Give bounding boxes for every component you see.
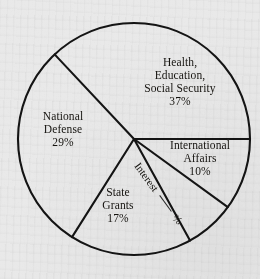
pie-chart-figure: Health, Education, Social Security 37% N…	[0, 0, 260, 279]
slice-value-international: 10%	[152, 165, 248, 178]
slice-value-defense: 29%	[20, 136, 106, 149]
slice-label-international-line2: Affairs	[152, 152, 248, 165]
slice-label-health-line2: Education,	[124, 69, 236, 82]
slice-label-international-line1: International	[152, 139, 248, 152]
slice-label-health-line3: Social Security	[124, 82, 236, 95]
slice-label-state-line2: Grants	[78, 199, 158, 212]
slice-value-state: 17%	[78, 212, 158, 225]
slice-label-state-line1: State	[78, 186, 158, 199]
slice-label-defense-line2: Defense	[20, 123, 106, 136]
slice-label-health-line1: Health,	[124, 56, 236, 69]
slice-label-state-grants: State Grants 17%	[78, 186, 158, 225]
slice-label-national-defense: National Defense 29%	[20, 110, 106, 149]
slice-label-international-affairs: International Affairs 10%	[152, 139, 248, 178]
slice-value-health: 37%	[124, 95, 236, 108]
slice-label-health-education-social-security: Health, Education, Social Security 37%	[124, 56, 236, 108]
slice-label-defense-line1: National	[20, 110, 106, 123]
